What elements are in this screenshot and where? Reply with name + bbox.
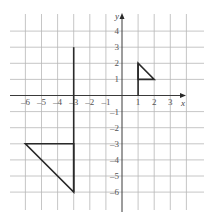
y-tick-label: –3 (109, 139, 120, 149)
y-tick-label: –2 (109, 123, 119, 133)
y-axis-arrow-icon (120, 13, 125, 19)
y-tick-label: –1 (109, 107, 119, 117)
y-tick-label: 3 (115, 42, 120, 52)
x-tick-label: –5 (36, 97, 47, 107)
x-tick-label: 2 (152, 97, 157, 107)
axes (10, 13, 186, 212)
x-tick-label: 1 (136, 97, 141, 107)
y-tick-label: –6 (109, 187, 120, 197)
y-tick-label: 4 (115, 26, 120, 36)
y-tick-label: 1 (115, 74, 120, 84)
y-tick-label: –4 (109, 155, 120, 165)
y-axis-label: y (114, 11, 119, 21)
x-tick-label: –6 (20, 97, 31, 107)
grid-lines (10, 14, 204, 210)
plot-canvas: xy–6–5–4–3–2–11234321–1–2–3–4–5–6 (0, 0, 204, 214)
x-tick-label: –1 (100, 97, 110, 107)
x-tick-label: –4 (52, 97, 63, 107)
coordinate-grid-diagram: xy–6–5–4–3–2–11234321–1–2–3–4–5–6 (0, 0, 204, 214)
x-tick-label: –2 (84, 97, 94, 107)
x-axis-label: x (180, 98, 185, 108)
tick-labels: xy–6–5–4–3–2–11234321–1–2–3–4–5–6 (20, 11, 185, 197)
small-triangle (138, 63, 154, 79)
x-tick-label: 3 (168, 97, 173, 107)
y-tick-label: 2 (115, 58, 120, 68)
y-tick-label: –5 (109, 171, 120, 181)
large-triangle (25, 144, 73, 192)
